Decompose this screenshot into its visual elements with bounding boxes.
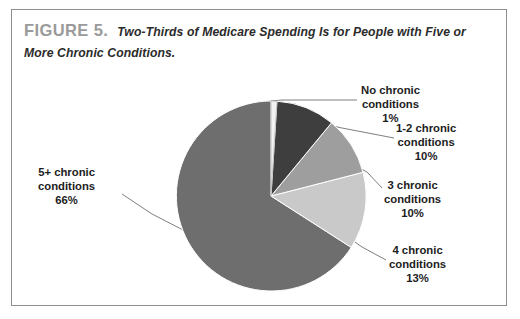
- pie-slices: [176, 101, 366, 291]
- pie-label-four-line1: 4 chronic: [392, 244, 442, 256]
- figure-number-label: FIGURE 5.: [24, 21, 108, 39]
- pie-label-fiveplus: 5+ chronic conditions 66%: [38, 166, 95, 207]
- pie-label-three-line1: 3 chronic: [387, 179, 437, 191]
- pie-label-four: 4 chronic conditions 13%: [389, 244, 446, 285]
- pie-label-fiveplus-line2: conditions: [38, 180, 95, 192]
- pie-label-one-two-line2: conditions: [398, 136, 455, 148]
- pie-label-three-line2: conditions: [384, 193, 441, 205]
- pie-label-no-chronic-line1: No chronic: [361, 84, 420, 96]
- pie-label-one-two: 1-2 chronic conditions 10%: [396, 122, 456, 163]
- pie-label-one-two-line1: 1-2 chronic: [396, 122, 456, 134]
- pie-label-three: 3 chronic conditions 10%: [384, 179, 441, 220]
- pie-label-four-percent: 13%: [389, 272, 446, 286]
- pie-label-fiveplus-line1: 5+ chronic: [38, 166, 95, 178]
- pie-label-three-percent: 10%: [384, 207, 441, 221]
- pie-label-no-chronic: No chronic conditions 1%: [361, 84, 420, 125]
- pie-label-four-line2: conditions: [389, 258, 446, 270]
- figure-caption: FIGURE 5.Two-Thirds of Medicare Spending…: [24, 20, 494, 63]
- pie-label-one-two-percent: 10%: [396, 150, 456, 164]
- pie-chart: No chronic conditions 1% 1-2 chronic con…: [12, 62, 506, 305]
- pie-label-no-chronic-line2: conditions: [362, 98, 419, 110]
- pie-label-fiveplus-percent: 66%: [38, 194, 95, 208]
- figure-frame: FIGURE 5.Two-Thirds of Medicare Spending…: [11, 9, 507, 306]
